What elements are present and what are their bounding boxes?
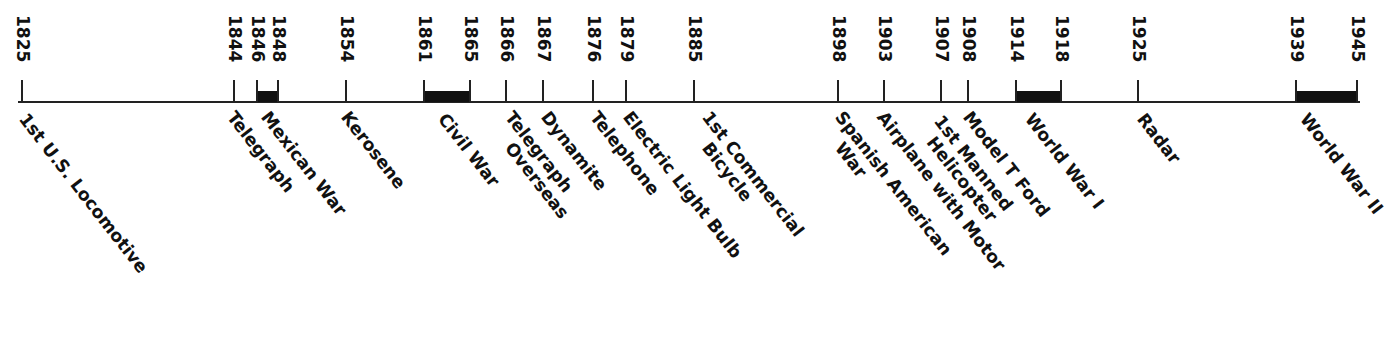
tick-1865 <box>469 80 471 102</box>
year-label-1879: 1879 <box>618 15 635 62</box>
tick-1876 <box>592 80 594 102</box>
year-label-1825: 1825 <box>14 15 31 62</box>
year-label-1867: 1867 <box>535 15 552 62</box>
event-label-line: World War II <box>1296 110 1386 218</box>
year-label-1861: 1861 <box>416 15 433 62</box>
span-bar-world-war-ii <box>1296 91 1357 102</box>
year-label-1925: 1925 <box>1130 15 1147 62</box>
span-bar-world-war-i <box>1016 91 1061 102</box>
tick-1907 <box>940 80 942 102</box>
invention-timeline: 1825184418461848185418611865186618671876… <box>0 0 1391 349</box>
span-bar-mexican-war <box>257 91 278 102</box>
year-label-1876: 1876 <box>585 15 602 62</box>
year-label-1914: 1914 <box>1008 15 1025 62</box>
event-label-1854: Kerosene <box>337 108 409 193</box>
tick-1867 <box>542 80 544 102</box>
tick-1844 <box>233 80 235 102</box>
tick-1825 <box>21 80 23 102</box>
tick-1908 <box>967 80 969 102</box>
tick-1898 <box>837 80 839 102</box>
tick-1918 <box>1060 80 1062 102</box>
tick-1925 <box>1137 80 1139 102</box>
year-label-1844: 1844 <box>226 15 243 62</box>
event-label-line: Kerosene <box>337 108 409 193</box>
tick-1854 <box>345 80 347 102</box>
tick-1939 <box>1295 80 1297 102</box>
tick-1861 <box>423 80 425 102</box>
event-label-line: 1st U.S. Locomotive <box>15 110 151 277</box>
timeline-axis <box>18 101 1360 103</box>
event-label-1925: Radar <box>1133 110 1184 168</box>
event-label-line: Radar <box>1133 110 1184 168</box>
event-label-1861: Civil War <box>434 110 503 191</box>
year-label-1907: 1907 <box>933 15 950 62</box>
year-label-1945: 1945 <box>1349 15 1366 62</box>
tick-1846 <box>256 80 258 102</box>
span-bar-civil-war <box>424 91 470 102</box>
tick-1879 <box>625 80 627 102</box>
event-label-line: Civil War <box>434 110 503 191</box>
year-label-1918: 1918 <box>1053 15 1070 62</box>
tick-1866 <box>505 80 507 102</box>
year-label-1903: 1903 <box>876 15 893 62</box>
year-label-1865: 1865 <box>462 15 479 62</box>
year-label-1908: 1908 <box>960 15 977 62</box>
event-label-1939: World War II <box>1296 110 1386 218</box>
year-label-1866: 1866 <box>498 15 515 62</box>
event-label-1825: 1st U.S. Locomotive <box>15 110 151 277</box>
year-label-1854: 1854 <box>338 15 355 62</box>
tick-1903 <box>883 80 885 102</box>
tick-1945 <box>1356 80 1358 102</box>
tick-1885 <box>693 80 695 102</box>
year-label-1848: 1848 <box>270 15 287 62</box>
tick-1848 <box>277 80 279 102</box>
year-label-1939: 1939 <box>1288 15 1305 62</box>
year-label-1898: 1898 <box>830 15 847 62</box>
event-label-1885: 1st Commercial Bicycle <box>683 108 807 252</box>
year-label-1846: 1846 <box>249 15 266 62</box>
tick-1914 <box>1015 80 1017 102</box>
year-label-1885: 1885 <box>686 15 703 62</box>
